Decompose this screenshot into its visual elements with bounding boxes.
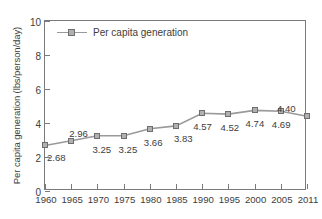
data-point-marker (42, 142, 48, 148)
x-tick-label: 1990 (193, 194, 214, 205)
chart-container: Per capita generation (lbs/person/day) 0… (0, 0, 322, 219)
series-line-per-capita-generation (45, 21, 307, 191)
x-tick-label: 2005 (271, 194, 292, 205)
data-point-label: 2.96 (69, 128, 88, 139)
x-tick-label: 2000 (245, 194, 266, 205)
x-tick-label: 1960 (35, 194, 56, 205)
y-tick-label: 6 (35, 85, 41, 96)
data-point-label: 4.52 (220, 122, 239, 133)
x-tick: 2011 (307, 184, 308, 189)
x-tick-label: 2011 (298, 194, 319, 205)
x-tick-label: 1980 (140, 194, 161, 205)
legend: Per capita generation (57, 27, 188, 38)
plot-frame: 0246810 19601965197019751980198519901995… (44, 20, 306, 190)
data-point-label: 3.25 (119, 144, 138, 155)
data-point-label: 2.68 (47, 152, 66, 163)
data-point-marker (121, 133, 127, 139)
data-point-marker (252, 107, 258, 113)
data-point-marker (147, 126, 153, 132)
plot-area: 0246810 19601965197019751980198519901995… (45, 21, 305, 189)
legend-marker-icon (57, 29, 87, 37)
data-point-label: 3.25 (92, 144, 111, 155)
data-point-marker (199, 110, 205, 116)
data-point-label: 4.74 (246, 118, 265, 129)
y-axis-title: Per capita generation (lbs/person/day) (11, 16, 22, 196)
data-point-label: 3.83 (174, 133, 193, 144)
y-tick: 0 (45, 191, 50, 192)
data-point-marker (94, 133, 100, 139)
x-tick-label: 1975 (114, 194, 135, 205)
data-point-marker (173, 123, 179, 129)
data-point-label: 4.57 (193, 121, 212, 132)
x-tick-label: 1995 (219, 194, 240, 205)
x-tick-label: 1965 (62, 194, 83, 205)
y-tick-label: 4 (35, 119, 41, 130)
data-point-marker (225, 111, 231, 117)
x-tick-label: 1970 (88, 194, 109, 205)
y-tick-label: 10 (30, 17, 41, 28)
data-point-label: 3.66 (144, 137, 163, 148)
x-tick-label: 1985 (166, 194, 187, 205)
y-tick-label: 8 (35, 51, 41, 62)
y-tick-label: 2 (35, 153, 41, 164)
data-point-label: 4.40 (277, 103, 296, 114)
legend-label: Per capita generation (93, 27, 188, 38)
data-point-label: 4.69 (272, 119, 291, 130)
data-point-marker (304, 113, 310, 119)
